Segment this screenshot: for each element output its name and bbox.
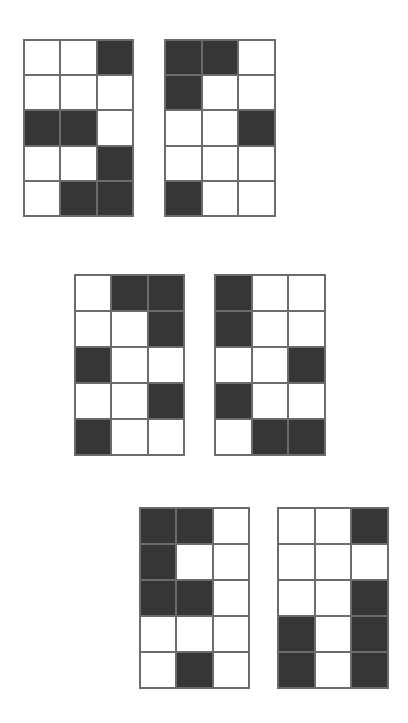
- grid-cell-filled: [352, 617, 387, 651]
- grid-cell-empty: [61, 41, 95, 74]
- grid-cell-empty: [177, 617, 211, 651]
- grid-cell-filled: [166, 41, 201, 74]
- grid-cell-filled: [149, 384, 183, 418]
- grid-cell-filled: [141, 581, 175, 615]
- grid-cell-empty: [253, 276, 288, 310]
- grid-cell-empty: [61, 147, 95, 180]
- grid-cell-filled: [216, 312, 251, 346]
- grid-cell-empty: [316, 617, 351, 651]
- grid-cell-empty: [141, 617, 175, 651]
- grid-cell-empty: [216, 420, 251, 454]
- grid-cell-empty: [76, 276, 110, 310]
- grid-cell-filled: [352, 653, 387, 687]
- grid-cell-empty: [214, 509, 248, 543]
- grid-cell-filled: [98, 41, 132, 74]
- figure-canvas: [0, 0, 408, 723]
- grid-cell-filled: [239, 111, 274, 144]
- grid-cell-filled: [203, 41, 238, 74]
- grid-cell-filled: [216, 276, 251, 310]
- grid-cell-empty: [112, 348, 146, 382]
- grid-cell-empty: [203, 111, 238, 144]
- grid-cell-filled: [76, 420, 110, 454]
- grid-cell-filled: [289, 420, 324, 454]
- grid-cell-empty: [239, 182, 274, 215]
- grid-cell-empty: [203, 182, 238, 215]
- grid-cell-empty: [166, 111, 201, 144]
- grid-cell-empty: [216, 348, 251, 382]
- grid-cell-filled: [141, 545, 175, 579]
- grid-cell-filled: [76, 348, 110, 382]
- grid-figure-middle-right: [214, 274, 326, 456]
- grid-cell-filled: [177, 653, 211, 687]
- grid-cell-empty: [203, 147, 238, 180]
- grid-cell-filled: [112, 276, 146, 310]
- grid-cell-empty: [141, 653, 175, 687]
- grid-cell-empty: [25, 76, 59, 109]
- grid-cell-filled: [25, 111, 59, 144]
- grid-cell-empty: [316, 581, 351, 615]
- grid-cell-empty: [25, 41, 59, 74]
- grid-cell-filled: [149, 312, 183, 346]
- grid-cell-filled: [177, 509, 211, 543]
- grid-figure-top-left: [23, 39, 134, 217]
- grid-cell-empty: [253, 384, 288, 418]
- grid-figure-top-right: [164, 39, 276, 217]
- grid-figure-bottom-left: [139, 507, 250, 689]
- grid-cell-empty: [166, 147, 201, 180]
- grid-cell-filled: [279, 617, 314, 651]
- grid-cell-empty: [239, 147, 274, 180]
- grid-cell-empty: [76, 384, 110, 418]
- grid-cell-empty: [76, 312, 110, 346]
- grid-cell-empty: [279, 509, 314, 543]
- grid-cell-filled: [98, 182, 132, 215]
- grid-cell-empty: [112, 420, 146, 454]
- grid-cell-filled: [141, 509, 175, 543]
- grid-cell-empty: [149, 420, 183, 454]
- grid-cell-empty: [214, 617, 248, 651]
- grid-cell-filled: [98, 147, 132, 180]
- grid-cell-empty: [112, 384, 146, 418]
- grid-cell-filled: [253, 420, 288, 454]
- grid-figure-bottom-right: [277, 507, 389, 689]
- grid-cell-empty: [112, 312, 146, 346]
- grid-cell-empty: [316, 653, 351, 687]
- grid-cell-filled: [289, 348, 324, 382]
- grid-cell-empty: [98, 76, 132, 109]
- grid-cell-empty: [61, 76, 95, 109]
- grid-cell-filled: [149, 276, 183, 310]
- grid-cell-filled: [166, 182, 201, 215]
- grid-cell-empty: [352, 545, 387, 579]
- grid-cell-empty: [98, 111, 132, 144]
- grid-cell-empty: [289, 312, 324, 346]
- grid-cell-empty: [253, 312, 288, 346]
- grid-cell-filled: [177, 581, 211, 615]
- grid-cell-filled: [61, 182, 95, 215]
- grid-cell-filled: [61, 111, 95, 144]
- grid-cell-empty: [239, 41, 274, 74]
- grid-cell-filled: [352, 509, 387, 543]
- grid-cell-empty: [214, 545, 248, 579]
- grid-cell-empty: [214, 581, 248, 615]
- grid-cell-empty: [279, 581, 314, 615]
- grid-cell-filled: [279, 653, 314, 687]
- grid-cell-empty: [214, 653, 248, 687]
- grid-cell-empty: [289, 276, 324, 310]
- grid-cell-empty: [279, 545, 314, 579]
- grid-cell-empty: [239, 76, 274, 109]
- grid-cell-empty: [25, 182, 59, 215]
- grid-cell-empty: [289, 384, 324, 418]
- grid-cell-filled: [352, 581, 387, 615]
- grid-cell-empty: [203, 76, 238, 109]
- grid-cell-empty: [177, 545, 211, 579]
- grid-cell-empty: [25, 147, 59, 180]
- grid-cell-empty: [316, 509, 351, 543]
- grid-cell-empty: [149, 348, 183, 382]
- grid-cell-filled: [216, 384, 251, 418]
- grid-cell-empty: [253, 348, 288, 382]
- grid-cell-filled: [166, 76, 201, 109]
- grid-cell-empty: [316, 545, 351, 579]
- grid-figure-middle-left: [74, 274, 185, 456]
